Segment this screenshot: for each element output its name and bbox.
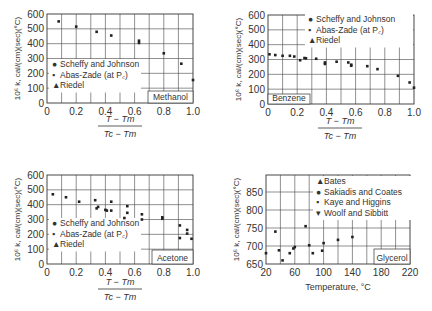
svg-text:Glycerol: Glycerol [376, 253, 407, 263]
data-point [163, 52, 166, 55]
x-axis-ticks: 2060100140180220 [260, 267, 418, 278]
legend-marker-icon: ● [316, 187, 321, 197]
benzene-chart: 010020030040050060000.20.40.60.81.010⁶ k… [234, 10, 421, 142]
svg-text:Acetone: Acetone [157, 253, 188, 263]
y-tick-label: 500 [27, 184, 44, 195]
legend-entry: Scheffy and Johnson [60, 218, 140, 228]
legend-entry: Riedel [60, 239, 84, 249]
y-tick-label: 600 [248, 10, 265, 21]
legend-marker-icon: ● [52, 59, 57, 69]
x-tick-label: 20 [260, 267, 272, 278]
legend-entry: Riedel [60, 80, 84, 90]
data-point [65, 196, 68, 199]
data-point [322, 242, 325, 245]
x-tick-label: 0.8 [157, 267, 171, 278]
y-tick-label: 800 [246, 205, 263, 216]
legend-entry: Sakiadis and Coates [324, 187, 402, 197]
substance-label: Benzene [268, 93, 310, 104]
x-tick-label: 0.8 [157, 106, 171, 117]
data-point [190, 237, 193, 240]
data-point [186, 232, 189, 235]
svg-text:Methanol: Methanol [153, 92, 188, 102]
legend: ●Scheffy and Johnson▪Abas-Zade (at P꜀)▲R… [305, 14, 413, 48]
x-tick-label: 0 [44, 106, 50, 117]
x-tick-label: 0 [265, 107, 271, 118]
data-point [289, 54, 292, 57]
data-point [110, 200, 113, 203]
legend-entry: Abas-Zade (at P꜀) [316, 25, 384, 35]
x-tick-label: 0.2 [290, 107, 304, 118]
data-point [138, 39, 141, 42]
x-axis-label: T − TmTc − Tm [318, 116, 362, 141]
svg-text:T − Tm: T − Tm [106, 277, 135, 287]
acetone-chart: 010020030040050060000.20.40.60.81.010⁶ k… [13, 170, 200, 303]
data-point [351, 236, 354, 239]
data-point [141, 213, 144, 216]
data-point [408, 81, 411, 84]
x-tick-label: 60 [289, 267, 301, 278]
legend-entry: Abas-Zade (at P꜀) [60, 229, 128, 239]
legend-marker-icon: ▪ [52, 229, 55, 239]
data-point [265, 252, 268, 255]
data-point [268, 53, 271, 56]
data-point [305, 57, 308, 60]
svg-text:Benzene: Benzene [272, 93, 306, 103]
data-point [293, 55, 296, 58]
data-point [281, 54, 284, 57]
substance-label: Methanol [148, 91, 193, 103]
y-axis-ticks: 650700750800850 [246, 187, 263, 270]
x-tick-label: 140 [344, 267, 361, 278]
data-point [106, 209, 109, 212]
methanol-chart: 010020030040050060000.20.40.60.81.010⁶ k… [13, 9, 200, 140]
x-tick-label: 1.0 [186, 267, 200, 278]
legend-entry: Kaye and Higgins [324, 197, 391, 207]
data-point [324, 63, 327, 66]
data-point [180, 62, 183, 65]
y-tick-label: 700 [246, 241, 263, 252]
y-axis-label: 10⁶ k, cal/(cm)(sec)(°C) [13, 16, 22, 100]
substance-label: Acetone [152, 250, 193, 264]
data-point [126, 205, 129, 208]
data-point [95, 31, 98, 34]
y-tick-label: 300 [27, 53, 44, 64]
data-point [294, 246, 297, 249]
legend: ●Scheffy and Johnson▪Abas-Zade (at P꜀)▲R… [49, 218, 141, 252]
y-tick-label: 850 [246, 187, 263, 198]
x-tick-label: 1.0 [186, 106, 200, 117]
data-point [141, 218, 144, 221]
data-point [274, 54, 277, 57]
data-point [337, 239, 340, 242]
data-point [179, 237, 182, 240]
data-point [321, 249, 324, 252]
glycerol-chart: 650700750800850206010014018022010⁶ k, ca… [232, 175, 419, 292]
x-tick-label: 0 [44, 267, 50, 278]
data-point [350, 64, 353, 67]
legend: ●Scheffy and Johnson▪Abas-Zade (at P꜀)▲R… [49, 59, 141, 93]
y-tick-label: 500 [248, 24, 265, 35]
data-point [335, 60, 338, 63]
data-point [397, 75, 400, 78]
x-axis-label: Temperature, °C [305, 282, 371, 292]
y-tick-label: 100 [27, 244, 44, 255]
data-point [192, 79, 195, 82]
legend-entry: Riedel [316, 35, 340, 45]
data-point [95, 207, 98, 210]
data-point [186, 229, 189, 232]
x-tick-label: 0.2 [69, 106, 83, 117]
legend-entry: Abas-Zade (at P꜀) [60, 70, 128, 80]
data-point [52, 193, 55, 196]
data-point [312, 252, 315, 255]
legend-entry: Woolf and Sibbitt [324, 208, 389, 218]
legend-entry: Bates [324, 176, 346, 186]
y-axis-label: 10⁶ k, cal/(cm)(sec)(°C) [232, 177, 241, 261]
svg-text:T − Tm: T − Tm [326, 116, 355, 126]
data-point [281, 259, 284, 262]
y-axis-ticks: 0100200300400500600 [27, 9, 44, 109]
y-tick-label: 500 [27, 23, 44, 34]
legend-marker-icon: ▪ [308, 25, 311, 35]
y-tick-label: 750 [246, 223, 263, 234]
x-tick-label: 0.2 [69, 267, 83, 278]
data-point [94, 199, 97, 202]
data-point [413, 86, 416, 89]
x-tick-label: 0.8 [378, 107, 392, 118]
